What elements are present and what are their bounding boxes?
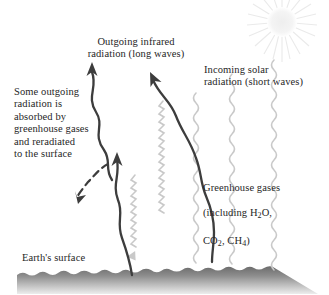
label-outgoing-infrared-radiation: Outgoing infrared radiation (long waves): [66, 36, 206, 61]
greenhouse-effect-diagram: Outgoing infrared radiation (long waves)…: [0, 0, 329, 295]
greenhouse-gases-line-1: Greenhouse gases: [203, 182, 280, 193]
label-earth-surface: Earth's surface: [22, 252, 132, 264]
greenhouse-gases-line-2-post: O,: [262, 207, 272, 218]
solar-wave-5: [194, 93, 199, 263]
label-incoming-solar-radiation: Incoming solar radiation (short waves): [204, 64, 329, 89]
solar-wave-2: [131, 175, 136, 247]
reradiated-dashed-arrow: [75, 164, 108, 204]
sun-icon: [247, 0, 317, 62]
solar-wave-1: [159, 101, 164, 213]
greenhouse-gases-ch4-pre: , CH: [222, 235, 242, 246]
earth-surface-band: [17, 266, 318, 294]
greenhouse-gases-line-2-pre: (including H: [203, 207, 258, 218]
label-greenhouse-gases: Greenhouse gases (including H2O, CO2, CH…: [203, 170, 323, 250]
greenhouse-gases-co2: CO: [203, 235, 218, 246]
label-absorbed-reradiated: Some outgoing radiation is absorbed by g…: [14, 86, 126, 160]
greenhouse-gases-close-paren: ): [246, 235, 250, 246]
